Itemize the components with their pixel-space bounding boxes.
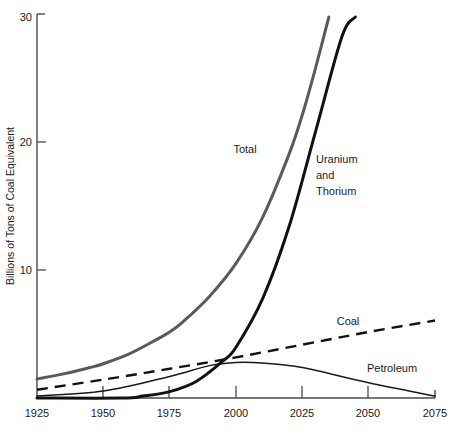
series-label-coal: Coal — [337, 315, 360, 327]
y-tick-label-30: 30 — [20, 11, 32, 23]
series-label-uranium-line3: Thorium — [316, 185, 356, 197]
x-tick-label-2050: 2050 — [356, 407, 380, 419]
x-tick-label-2000: 2000 — [224, 407, 248, 419]
x-tick-label-2075: 2075 — [423, 407, 447, 419]
series-label-uranium-line1: Uranium — [316, 153, 358, 165]
x-tick-label-1950: 1950 — [91, 407, 115, 419]
y-tick-label-20: 20 — [20, 136, 32, 148]
series-label-total: Total — [233, 143, 256, 155]
series-label-petroleum: Petroleum — [367, 362, 417, 374]
x-tick-label-1975: 1975 — [157, 407, 181, 419]
x-tick-label-2025: 2025 — [290, 407, 314, 419]
y-tick-label-10: 10 — [20, 264, 32, 276]
x-tick-label-1925: 1925 — [25, 407, 49, 419]
series-label-uranium-line2: and — [316, 169, 334, 181]
chart-svg: 30 20 10 Billions of Tons of Coal Equiva… — [0, 0, 450, 433]
y-axis-title: Billions of Tons of Coal Equivalent — [4, 127, 16, 285]
energy-projection-chart: 30 20 10 Billions of Tons of Coal Equiva… — [0, 0, 450, 433]
